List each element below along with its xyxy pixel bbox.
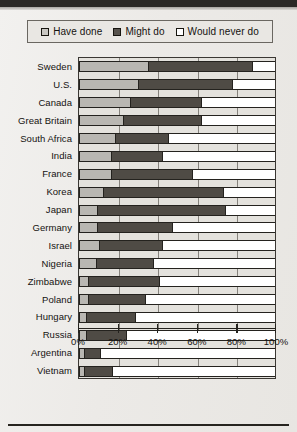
axis-tick-20 (118, 324, 119, 333)
bar-segment-have-done (80, 241, 99, 250)
page-bottom-rule (8, 424, 289, 426)
bar-segment-would-never-do (163, 241, 276, 250)
bar-hungary (79, 312, 276, 323)
bar-segment-have-done (80, 80, 138, 89)
bar-canada (79, 97, 276, 108)
bar-segment-would-never-do (154, 259, 276, 268)
legend-item-have-done: Have done (41, 26, 102, 37)
legend-item-label: Would never do (188, 26, 259, 37)
bar-india (79, 151, 276, 162)
bar-segment-might-do (112, 170, 192, 179)
bar-segment-might-do (104, 188, 222, 197)
legend-item-label: Have done (53, 26, 102, 37)
bar-segment-would-never-do (224, 188, 276, 197)
category-label: Poland (42, 293, 72, 304)
category-label: Canada (38, 96, 72, 107)
legend-item-label: Might do (125, 26, 164, 37)
bar-segment-would-never-do (233, 80, 276, 89)
bar-poland (79, 294, 276, 305)
value-axis (78, 324, 276, 332)
bar-segment-have-done (80, 98, 130, 107)
bar-segment-have-done (80, 170, 111, 179)
bar-segment-might-do (112, 152, 162, 161)
category-label: Israel (48, 239, 72, 250)
bar-segment-would-never-do (226, 206, 276, 215)
bar-germany (79, 222, 276, 233)
axis-tick-label: 40% (148, 336, 167, 347)
bar-segment-might-do (98, 223, 172, 232)
category-label: France (42, 168, 72, 179)
page-top-rule-shadow (0, 7, 297, 10)
bar-segment-might-do (100, 241, 162, 250)
bar-segment-would-never-do (253, 62, 276, 71)
bar-segment-would-never-do (136, 313, 276, 322)
bar-israel (79, 240, 276, 251)
legend-swatch-would-never-do (176, 28, 184, 36)
bar-segment-might-do (85, 367, 112, 376)
bar-segment-have-done (80, 206, 97, 215)
bar-segment-have-done (80, 259, 96, 268)
category-label: Nigeria (42, 257, 72, 268)
category-axis-labels: SwedenU.S.CanadaGreat BritainSouth Afric… (0, 55, 76, 381)
bar-segment-have-done (80, 62, 148, 71)
bar-segment-might-do (87, 313, 136, 322)
category-label: Hungary (36, 311, 72, 322)
bar-segment-might-do (139, 80, 232, 89)
category-label: Great Britain (18, 114, 72, 125)
category-label: South Africa (20, 132, 72, 143)
bar-segment-might-do (97, 259, 153, 268)
bar-segment-would-never-do (169, 134, 276, 143)
axis-tick-label: 60% (187, 336, 206, 347)
bar-segment-have-done (80, 295, 88, 304)
bar-segment-would-never-do (146, 295, 276, 304)
category-label: Zimbabwe (28, 275, 72, 286)
bar-segment-would-never-do (173, 223, 276, 232)
page-background: Have doneMight doWould never do SwedenU.… (0, 0, 297, 432)
bar-segment-might-do (131, 98, 201, 107)
legend-swatch-have-done (41, 28, 49, 36)
value-axis-line (78, 328, 276, 329)
bar-korea (79, 187, 276, 198)
bar-segment-would-never-do (160, 277, 276, 286)
legend-item-might-do: Might do (113, 26, 164, 37)
axis-tick-60 (197, 324, 198, 333)
value-axis-tick-labels: 0%20%40%60%80%100% (0, 336, 297, 352)
category-label: Vietnam (37, 365, 72, 376)
bar-segment-have-done (80, 152, 111, 161)
bar-segment-would-never-do (163, 152, 276, 161)
category-label: Germany (33, 221, 72, 232)
bar-segment-would-never-do (193, 170, 276, 179)
bar-segment-might-do (124, 116, 202, 125)
category-label: India (51, 150, 72, 161)
bar-vietnam (79, 366, 276, 377)
bar-segment-would-never-do (202, 116, 276, 125)
bar-segment-might-do (89, 295, 145, 304)
bar-segment-would-never-do (202, 98, 276, 107)
bar-segment-have-done (80, 116, 123, 125)
bar-segment-might-do (98, 206, 224, 215)
legend-swatch-might-do (113, 28, 121, 36)
bar-segment-might-do (149, 62, 252, 71)
bar-segment-might-do (116, 134, 168, 143)
category-label: Japan (46, 204, 72, 215)
axis-tick-label: 0% (71, 336, 85, 347)
bar-segment-might-do (89, 277, 159, 286)
bar-segment-have-done (80, 277, 88, 286)
bar-japan (79, 205, 276, 216)
axis-tick-label: 100% (264, 336, 289, 347)
bar-sweden (79, 61, 276, 72)
category-label: Korea (46, 186, 72, 197)
bar-nigeria (79, 258, 276, 269)
legend-item-would-never-do: Would never do (176, 26, 259, 37)
axis-tick-label: 20% (108, 336, 127, 347)
bar-u-s- (79, 79, 276, 90)
page-top-rule (0, 0, 297, 7)
chart-legend: Have doneMight doWould never do (27, 20, 273, 43)
axis-tick-80 (236, 324, 237, 333)
axis-tick-0 (78, 324, 79, 333)
category-label: U.S. (53, 78, 72, 89)
category-label: Sweden (37, 60, 72, 71)
axis-tick-100 (275, 324, 276, 333)
bar-segment-would-never-do (113, 367, 276, 376)
bar-segment-have-done (80, 223, 97, 232)
